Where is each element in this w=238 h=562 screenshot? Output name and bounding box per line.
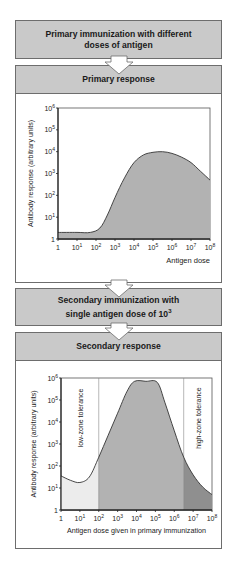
y-tick-label: 101 [47,483,58,492]
y-tick-label: 103 [44,168,55,177]
y-tick-label: 105 [44,124,55,133]
x-axis-label: Antigen dose given in primary immunizati… [67,526,206,535]
y-axis-label: Antibody response (arbitrary units) [27,120,35,227]
arrow-down-icon [105,56,133,74]
high-zone-tolerance-label: high-zone tolerance [195,387,203,449]
x-tick-label: 104 [131,513,142,522]
x-tick-label: 103 [112,513,123,522]
y-tick-label: 106 [47,373,58,382]
x-tick-label: 108 [207,513,218,522]
y-tick-label: 105 [47,395,58,404]
y-tick-label: 1 [51,236,55,243]
x-tick-label: 1 [56,244,60,251]
x-tick-label: 103 [110,242,121,251]
arrow-down-icon [105,323,133,340]
x-tick-label: 101 [72,242,83,251]
y-tick-label: 104 [44,146,55,155]
x-tick-label: 108 [205,242,216,251]
y-tick-label: 1 [54,507,58,514]
x-axis-label: Antigen dose [166,256,210,265]
x-tick-label: 104 [129,242,140,251]
y-tick-label: 102 [44,190,55,199]
x-tick-label: 106 [169,513,180,522]
primary-response-chart: 1101102103104105106110110210310410510610… [27,103,216,266]
x-tick-label: 107 [186,242,197,251]
secondary-response-chart: low-zone tolerancehigh-zone tolerance110… [30,373,218,536]
x-tick-label: 102 [93,513,104,522]
x-tick-label: 106 [167,242,178,251]
y-tick-label: 106 [44,103,55,112]
x-tick-label: 1 [59,515,63,522]
x-tick-label: 107 [188,513,199,522]
x-tick-label: 102 [91,242,102,251]
x-tick-label: 101 [75,513,86,522]
y-tick-label: 102 [47,461,58,470]
x-tick-label: 105 [148,242,159,251]
low-zone-tolerance-label: low-zone tolerance [77,389,84,448]
x-tick-label: 105 [150,513,161,522]
y-tick-label: 101 [44,212,55,221]
diagram-graphics: 1101102103104105106110110210310410510610… [0,0,238,562]
y-tick-label: 103 [47,439,58,448]
y-axis-label: Antibody response (arbitrary units) [30,391,38,498]
arrow-down-icon [105,280,133,297]
y-tick-label: 104 [47,417,58,426]
